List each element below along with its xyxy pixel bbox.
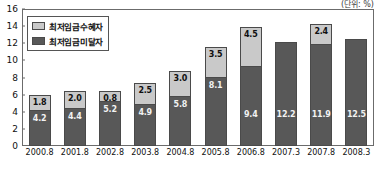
bar-value-label: 2.0 xyxy=(68,95,82,103)
chart-container: (단위: %) 0246810121416 1.84.22.04.40.85.2… xyxy=(0,0,380,175)
x-axis-tick-label: 2001.8 xyxy=(55,148,95,157)
x-axis: 2000.82001.82002.82003.82004.82005.82006… xyxy=(22,148,374,162)
bar-value-label: 3.5 xyxy=(209,51,223,59)
bar-value-label: 9.4 xyxy=(244,111,258,119)
bar-segment-beneficiary: 2.4 xyxy=(310,24,332,45)
bar-value-label: 4.4 xyxy=(68,113,82,121)
bar-group: 4.59.4 xyxy=(240,27,262,146)
x-axis-tick-label: 2004.8 xyxy=(160,148,200,157)
x-axis-tick-label: 2003.8 xyxy=(125,148,165,157)
bar-segment-below-minimum: 5.8 xyxy=(169,96,191,146)
bar-group: 1.84.2 xyxy=(29,95,51,146)
x-axis-tick-label: 2007.3 xyxy=(266,148,306,157)
bar-value-label: 12.2 xyxy=(277,111,296,119)
legend-label: 최저임금수혜자 xyxy=(49,20,103,32)
bar-segment-below-minimum: 4.9 xyxy=(134,104,156,146)
x-axis-tick-label: 2008.3 xyxy=(336,148,376,157)
bar-value-label: 11.9 xyxy=(312,111,331,119)
bar-segment-below-minimum: 8.1 xyxy=(205,77,227,146)
bar-segment-below-minimum: 5.2 xyxy=(99,101,121,146)
bar-value-label: 4.2 xyxy=(33,115,47,123)
bar-value-label: 2.4 xyxy=(314,28,328,36)
bar-group: 0.85.2 xyxy=(99,91,121,146)
bar-segment-beneficiary: 1.8 xyxy=(29,95,51,110)
bar-group: 3.58.1 xyxy=(205,47,227,146)
y-axis-tick-label: 2 xyxy=(12,124,18,134)
legend-label: 최저임금미달자 xyxy=(49,35,103,47)
bar-segment-below-minimum: 9.4 xyxy=(240,66,262,146)
bar-segment-below-minimum: 11.9 xyxy=(310,44,332,146)
bar-value-label: 5.8 xyxy=(174,101,188,109)
y-axis-tick-label: 6 xyxy=(12,90,18,100)
bar-segment-below-minimum: 4.2 xyxy=(29,110,51,146)
y-axis-tick-label: 10 xyxy=(7,55,18,65)
bar-segment-beneficiary: 2.0 xyxy=(64,91,86,108)
x-axis-tick-label: 2000.8 xyxy=(20,148,60,157)
bar-value-label: 4.5 xyxy=(244,31,258,39)
bar-group: 2.04.4 xyxy=(64,91,86,146)
bar-segment-beneficiary: 3.5 xyxy=(205,47,227,77)
unit-annotation: (단위: %) xyxy=(341,0,374,9)
legend-item-below: 최저임금미달자 xyxy=(32,35,103,47)
bar-value-label: 12.5 xyxy=(347,111,366,119)
chart-legend: 최저임금수혜자최저임금미달자 xyxy=(27,16,109,51)
bar-group: 12.5 xyxy=(345,39,367,146)
bar-segment-beneficiary: 3.0 xyxy=(169,71,191,97)
bar-value-label: 8.1 xyxy=(209,82,223,90)
legend-item-beneficiary: 최저임금수혜자 xyxy=(32,20,103,32)
bar-group: 12.2 xyxy=(275,42,297,146)
y-axis-tick-label: 8 xyxy=(12,73,18,83)
y-axis-tick-label: 0 xyxy=(12,141,18,151)
x-axis-tick-label: 2006.8 xyxy=(231,148,271,157)
bar-value-label: 5.2 xyxy=(103,106,117,114)
bar-segment-beneficiary: 0.8 xyxy=(99,91,121,101)
bar-group: 2.411.9 xyxy=(310,24,332,146)
y-axis-tick-label: 14 xyxy=(7,21,18,31)
legend-swatch-below xyxy=(32,37,45,45)
bar-segment-below-minimum: 12.5 xyxy=(345,39,367,146)
x-axis-tick-label: 2005.8 xyxy=(196,148,236,157)
y-axis: 0246810121416 xyxy=(0,9,22,146)
legend-swatch-beneficiary xyxy=(32,22,45,30)
bar-value-label: 2.5 xyxy=(138,87,152,95)
bar-group: 3.05.8 xyxy=(169,71,191,146)
x-axis-tick-label: 2002.8 xyxy=(90,148,130,157)
bar-value-label: 1.8 xyxy=(33,99,47,107)
bar-segment-below-minimum: 12.2 xyxy=(275,42,297,146)
bar-segment-beneficiary: 4.5 xyxy=(240,27,262,66)
bar-group: 2.54.9 xyxy=(134,83,156,146)
bar-segment-below-minimum: 4.4 xyxy=(64,108,86,146)
x-axis-tick-label: 2007.8 xyxy=(301,148,341,157)
bar-value-label: 3.0 xyxy=(174,75,188,83)
y-axis-tick-label: 16 xyxy=(7,4,18,14)
y-axis-tick-label: 12 xyxy=(7,38,18,48)
y-axis-tick-label: 4 xyxy=(12,107,18,117)
bar-segment-beneficiary: 2.5 xyxy=(134,83,156,104)
bar-value-label: 4.9 xyxy=(138,109,152,117)
